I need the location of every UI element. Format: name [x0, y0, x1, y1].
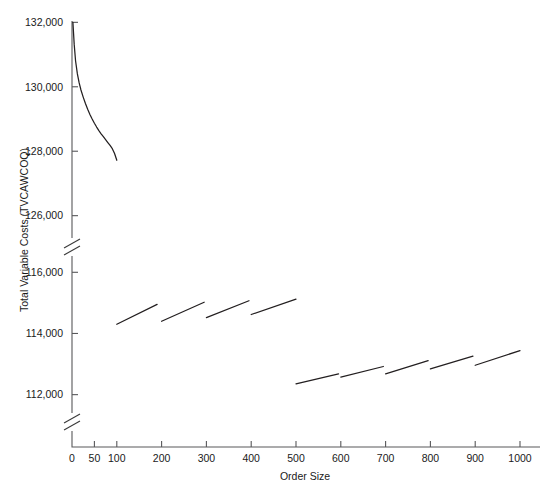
y-tick-label: 126,000	[25, 209, 63, 221]
x-tick-label: 300	[198, 452, 216, 464]
x-tick-label: 200	[153, 452, 171, 464]
mid-band-sawtooth-4	[251, 299, 296, 314]
mid-band-sawtooth-3	[206, 301, 249, 318]
axis-lines	[72, 21, 540, 447]
low-band-sawtooth-3	[386, 361, 429, 374]
y-tick-label: 116,000	[26, 266, 63, 278]
y-tick-label: 132,000	[25, 16, 63, 28]
x-tick-labels: 0501002003004005006007008009001000	[69, 452, 532, 464]
x-tick-label: 100	[108, 452, 126, 464]
x-axis-title: Order Size	[280, 470, 330, 482]
x-tick-label: 800	[422, 452, 440, 464]
decaying-cost-curve	[73, 22, 117, 160]
mid-band-sawtooth-1	[117, 304, 157, 324]
low-band-sawtooth-2	[341, 367, 384, 378]
y-tick-label: 130,000	[25, 81, 63, 93]
x-tick-label: 700	[377, 452, 395, 464]
y-tick-labels: 112,000114,000116,000126,000128,000130,0…	[25, 16, 63, 400]
y-axis-title: Total Variable Costs (TVCAWCOQ)	[18, 148, 30, 312]
x-tick-label: 500	[287, 452, 305, 464]
x-tick-label: 0	[69, 452, 75, 464]
axes-group	[72, 21, 540, 447]
x-tick-label: 1000	[508, 452, 532, 464]
x-tick-label: 50	[89, 452, 101, 464]
low-band-sawtooth-1	[296, 374, 339, 384]
chart-container: 112,000114,000116,000126,000128,000130,0…	[0, 0, 558, 499]
y-tick-label: 128,000	[25, 145, 63, 157]
data-series-group	[73, 22, 520, 384]
mid-band-sawtooth-2	[162, 302, 205, 321]
low-band-sawtooth-4	[430, 356, 473, 369]
x-tick-label: 400	[242, 452, 260, 464]
low-band-sawtooth-5	[475, 351, 520, 366]
y-tick-label: 114,000	[26, 327, 63, 339]
chart-plot: 112,000114,000116,000126,000128,000130,0…	[0, 0, 558, 499]
x-tick-label: 600	[332, 452, 350, 464]
x-tick-label: 900	[466, 452, 484, 464]
y-tick-label: 112,000	[26, 388, 63, 400]
